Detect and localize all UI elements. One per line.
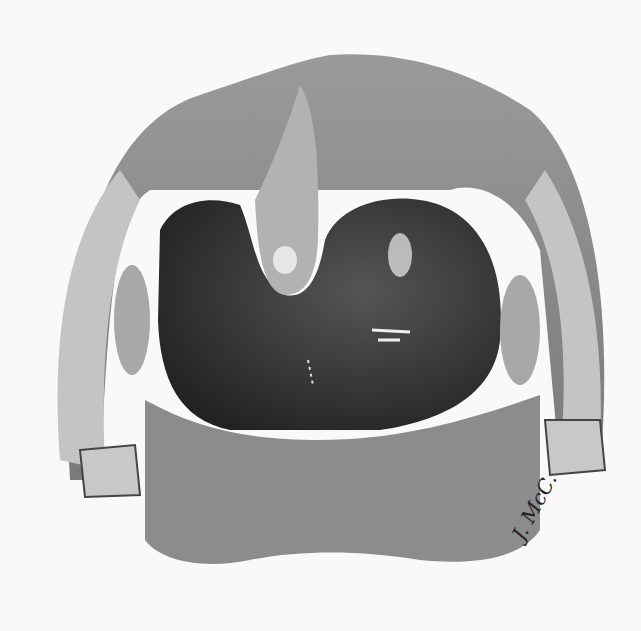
left-tooth	[80, 445, 140, 497]
illustration-canvas: J. McC.	[0, 0, 641, 631]
throat-cavity	[158, 198, 501, 430]
right-tonsil	[500, 275, 540, 385]
right-tooth	[545, 420, 605, 475]
left-tonsil	[114, 265, 150, 375]
throat-illustration	[0, 0, 641, 631]
